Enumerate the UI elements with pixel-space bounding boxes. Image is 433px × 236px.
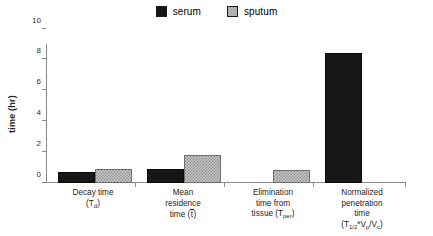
x-axis-separator-1	[135, 183, 136, 187]
legend-label-serum: serum	[173, 6, 201, 17]
y-axis-title-label: time (hr)	[7, 95, 17, 133]
bar-serum-decay-time	[58, 172, 95, 183]
y-axis-line	[46, 44, 47, 183]
category-label-mean-residence-time-formula: time (t)	[140, 209, 226, 221]
category-label-decay-time: Decay time (Td)	[50, 188, 136, 211]
category-label-elimination-time: Elimination time from tissue (Tper)	[228, 188, 318, 222]
bar-sputum-decay-time	[95, 169, 132, 183]
bar-chart: serum sputum time (hr) 0 2 4 6	[0, 0, 433, 236]
category-label-mean-residence-time-line2: residence	[140, 199, 226, 210]
category-label-mean-residence-time: Mean residence time (t)	[140, 188, 226, 221]
bar-serum-mean-residence-time	[147, 169, 184, 183]
category-label-mean-residence-time-line1: Mean	[140, 188, 226, 199]
category-label-normalized-penetration-time-line2: penetration	[318, 199, 406, 210]
category-label-normalized-penetration-time: Normalized penetration time (T1/2*Vp/Vc)	[318, 188, 406, 232]
category-label-decay-time-line1: Decay time	[50, 188, 136, 199]
category-label-decay-time-formula: (Td)	[50, 199, 136, 212]
legend-swatch-sputum-icon	[227, 6, 238, 17]
x-axis-separator-3	[313, 183, 314, 187]
legend-label-sputum: sputum	[244, 6, 277, 17]
legend-swatch-serum-icon	[156, 6, 167, 17]
category-label-normalized-penetration-time-line1: Normalized	[318, 188, 406, 199]
x-axis-separator-4	[405, 183, 406, 187]
category-label-normalized-penetration-time-formula: (T1/2*Vp/Vc)	[318, 220, 406, 233]
legend-entry-sputum: sputum	[227, 6, 277, 17]
chart-legend: serum sputum	[0, 6, 433, 17]
y-axis-title: time (hr)	[6, 44, 18, 183]
x-axis-separator-2	[224, 183, 225, 187]
category-label-elimination-time-line2: time from	[228, 199, 318, 210]
bar-sputum-mean-residence-time	[184, 155, 221, 183]
category-label-elimination-time-line1: Elimination	[228, 188, 318, 199]
bar-serum-normalized-penetration-time	[325, 53, 362, 183]
x-axis-category-labels: Decay time (Td) Mean residence time (t) …	[46, 188, 406, 236]
legend-entry-serum: serum	[156, 6, 201, 17]
category-label-elimination-time-formula: tissue (Tper)	[228, 209, 318, 222]
plot-area: 0 2 4 6 8 10 12 14	[46, 44, 406, 183]
category-label-normalized-penetration-time-line3: time	[318, 209, 406, 220]
bar-sputum-elimination-time	[273, 170, 310, 183]
